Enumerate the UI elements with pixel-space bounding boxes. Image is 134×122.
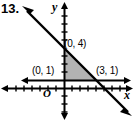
problem-number: 13. <box>1 2 19 15</box>
origin-label: O <box>43 88 51 99</box>
graph-figure: 13. y x O (0, 4) (0, 1) (3, 1) <box>0 0 134 122</box>
coordinate-plane-graphic <box>0 0 134 122</box>
point-label-0-1: (0, 1) <box>32 66 54 76</box>
x-axis-label: x <box>124 89 130 101</box>
diagonal-line <box>22 6 132 116</box>
y-axis-label: y <box>52 1 57 13</box>
x-axis <box>1 85 133 92</box>
point-label-3-1: (3, 1) <box>96 66 118 76</box>
point-label-0-4: (0, 4) <box>64 39 86 49</box>
